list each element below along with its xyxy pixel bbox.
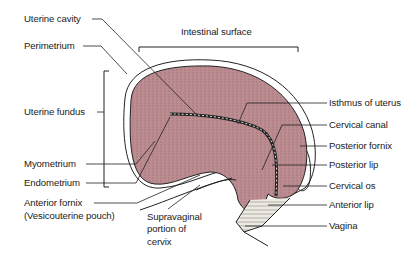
label-anterior-lip: Anterior lip xyxy=(329,199,374,210)
label-cervical-canal: Cervical canal xyxy=(329,119,388,130)
label-supravaginal-3: cervix xyxy=(147,236,171,247)
label-intestinal-surface: Intestinal surface xyxy=(181,26,252,37)
label-posterior-lip: Posterior lip xyxy=(329,159,378,170)
uterine-fundus-bracket xyxy=(104,71,109,187)
label-cervical-os: Cervical os xyxy=(329,180,375,191)
label-anterior-fornix: Anterior fornix xyxy=(24,197,82,208)
label-uterine-fundus: Uterine fundus xyxy=(24,106,85,117)
label-uterine-cavity: Uterine cavity xyxy=(24,13,81,24)
label-endometrium: Endometrium xyxy=(24,177,80,188)
label-vagina: Vagina xyxy=(329,220,358,231)
label-vesicouterine-pouch: (Vesicouterine pouch) xyxy=(24,210,115,221)
label-isthmus: Isthmus of uterus xyxy=(329,97,401,108)
label-supravaginal-1: Supravaginal xyxy=(147,211,202,222)
label-myometrium: Myometrium xyxy=(24,158,76,169)
label-supravaginal-2: portion of xyxy=(147,223,186,234)
label-posterior-fornix: Posterior fornix xyxy=(329,140,392,151)
label-perimetrium: Perimetrium xyxy=(24,40,75,51)
intestinal-surface-bracket xyxy=(139,47,298,52)
